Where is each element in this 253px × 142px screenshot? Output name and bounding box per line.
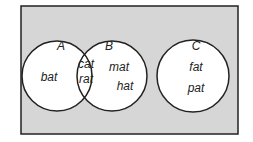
element-cat: cat bbox=[78, 57, 95, 71]
element-mat: mat bbox=[109, 60, 130, 74]
set-b-label: B bbox=[105, 39, 113, 53]
element-fat: fat bbox=[189, 60, 203, 74]
set-a-label: A bbox=[56, 39, 65, 53]
element-hat: hat bbox=[117, 79, 134, 93]
element-rat: rat bbox=[79, 72, 94, 86]
venn-diagram: A B C bat cat rat mat hat fat pat bbox=[0, 0, 253, 142]
set-c-label: C bbox=[192, 39, 201, 53]
element-bat: bat bbox=[41, 70, 58, 84]
element-pat: pat bbox=[187, 81, 205, 95]
